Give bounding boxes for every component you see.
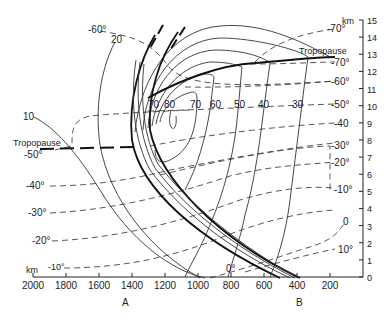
isotherm-minus30-right [160,146,330,190]
x-axis: 200018001600140012001000800600400200 [22,273,363,291]
x-tick-label: 2000 [22,280,45,291]
x-tick-label: 800 [223,280,240,291]
front-dashed-top-1 [150,25,163,48]
point-a-label: A [122,297,129,308]
isotherm-label-minus70-lower: -70° [331,57,349,68]
isotherms [50,29,345,278]
isotach-50 [152,62,242,277]
isotherm-label-minus20-right: -20° [331,157,349,168]
isotherm-label-minus70-upper: -70° [327,23,345,34]
isotach-20 [98,42,200,278]
point-b-label: B [296,297,303,308]
y-tick-label: 4 [367,204,372,214]
isotherm-label-minus60: -60° [88,24,106,35]
y-tick-label: 14 [367,33,377,43]
isotach-80 [170,110,177,128]
x-tick-label: 1400 [121,280,144,291]
y-tick-label: 11 [367,85,376,95]
y-tick-label: 9 [367,119,372,129]
x-tick-label: 1000 [187,280,210,291]
isotherm-minus60 [100,31,335,85]
y-tick-label: 7 [367,153,372,163]
y-tick-label: 3 [367,222,372,232]
isotherm-label-minus30-left: -30° [28,207,46,218]
x-tick-label: 1600 [88,280,111,291]
isotherm-label-minus40-right: -40 [334,118,349,129]
isotach-label-70b: 70 [190,99,202,110]
isotherm-label-minus50-left: -50° [24,149,42,160]
x-axis-unit-label: km [26,265,38,275]
isotherm-label-minus10-left: -10° [48,262,65,272]
isotach-label-70a: 70 [148,99,160,110]
y-axis: 0123456789101112131415 [359,16,377,283]
isotach-label-50: 50 [234,99,246,110]
isotherm-label-minus60-right: -60° [331,76,349,87]
isotherm-10 [245,249,335,272]
x-tick-label: 400 [289,280,306,291]
isotherm-minus20 [52,187,335,241]
y-tick-label: 0 [367,273,372,283]
tropopause-label-right: Tropopause [299,46,347,56]
y-tick-label: 8 [367,136,372,146]
y-tick-label: 1 [367,256,372,266]
y-tick-label: 6 [367,170,372,180]
front-lower-boundary [150,32,300,278]
isotherm-label-0-bottom: 0° [226,263,236,274]
isotherm-label-minus10-right: -10° [334,184,352,195]
isotach-label-80: 80 [164,99,176,110]
y-tick-label: 15 [367,16,377,26]
isotherm-label-10-right: 10° [338,244,353,255]
isotherm-label-minus30-right: -30° [331,140,349,151]
x-tick-label: 200 [322,280,339,291]
y-tick-label: 10 [367,102,377,112]
y-tick-label: 5 [367,187,372,197]
isotach-label-10: 10 [23,111,35,122]
isotherm-label-0-right: 0 [343,216,349,227]
x-tick-label: 600 [256,280,273,291]
tropopause-lines [40,57,335,149]
isotherm-minus10 [64,210,335,268]
isotach-label-30: 30 [292,99,304,110]
x-tick-label: 1800 [55,280,78,291]
isotherm-minus60-right [185,81,335,87]
isotherm-label-minus50-right: -50° [331,99,349,110]
front-dashed-top-2 [170,27,185,50]
isotherm-label-minus40-left: -40° [26,180,44,191]
y-tick-label: 13 [367,50,377,60]
isotherm-minus30-left [50,162,335,213]
front-inner-2 [138,62,295,278]
isotach-label-60: 60 [210,99,222,110]
isotach-label-20: 20 [111,34,123,45]
isotherm-minus40-right [150,123,335,146]
x-tick-label: 1200 [154,280,177,291]
isotach-label-40: 40 [258,99,270,110]
y-tick-label: 2 [367,239,372,249]
tropopause-label-left: Tropopause [13,138,61,148]
jet-stream-cross-section: 200018001600140012001000800600400200 012… [0,0,390,320]
y-tick-label: 12 [367,67,377,77]
isotherm-label-minus20-left: -20° [32,235,50,246]
